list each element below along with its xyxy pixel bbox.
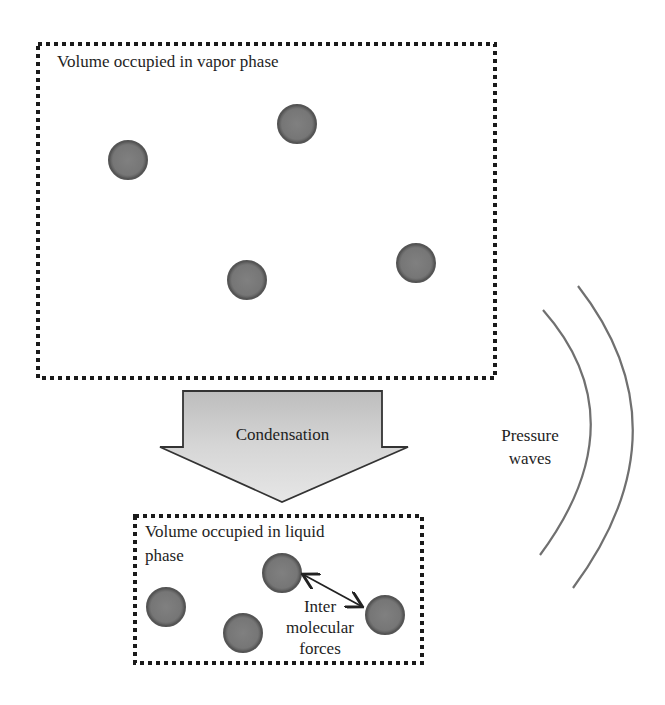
liquid-molecule <box>366 596 404 634</box>
vapor-molecule <box>228 261 266 299</box>
pressure-wave-outer <box>573 286 633 588</box>
condensation-label: Condensation <box>183 424 382 446</box>
liquid-phase-label-line1: Volume occupied in liquid <box>145 521 325 543</box>
vapor-molecule <box>109 141 147 179</box>
vapor-molecules <box>109 105 435 299</box>
vapor-phase-box <box>38 44 495 378</box>
vapor-molecule <box>278 105 316 143</box>
intermolecular-forces-label-line2: molecular <box>275 617 365 639</box>
liquid-phase-label-line2: phase <box>145 545 184 567</box>
pressure-waves-label-line1: Pressure <box>480 425 580 447</box>
liquid-molecule <box>224 614 262 652</box>
intermolecular-forces-label-line3: forces <box>275 638 365 660</box>
condensation-arrow <box>160 391 408 502</box>
vapor-phase-label: Volume occupied in vapor phase <box>57 51 279 73</box>
vapor-molecule <box>397 244 435 282</box>
liquid-molecule <box>263 554 301 592</box>
pressure-waves-label-line2: waves <box>480 448 580 470</box>
intermolecular-forces-label-line1: Inter <box>275 596 365 618</box>
liquid-molecule <box>147 588 185 626</box>
